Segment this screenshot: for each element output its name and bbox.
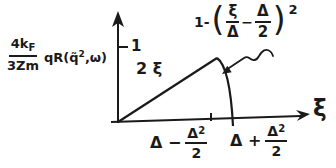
x-axis (111, 116, 301, 122)
formula-minus: − (241, 15, 253, 29)
x-tick-right-label: Δ + Δ2 2 (230, 124, 287, 158)
y-label-num-main: 4k (11, 36, 29, 51)
formula-fraction-xi-over-delta: ξ Δ (226, 4, 239, 40)
y-label-func-post: ,ω) (85, 50, 107, 65)
x-left-num-superscript: 2 (198, 125, 205, 136)
slope-label: 2 ξ (136, 61, 162, 77)
x-right-fraction: Δ2 2 (265, 124, 287, 158)
formula-fraction-delta-over-2: Δ 2 (255, 4, 271, 40)
x-left-pre: Δ − (150, 135, 181, 151)
y-label-denominator: 3Zm (7, 57, 39, 72)
formula-exponent: 2 (289, 3, 298, 16)
x-right-num-main: Δ (267, 123, 278, 139)
x-left-denominator: 2 (191, 144, 201, 160)
y-axis-label: 4kF 3Zm qR(q̃2,ω) (7, 37, 107, 72)
formula-frac2-numerator: Δ (255, 4, 271, 23)
formula-prefix: 1- (194, 15, 210, 29)
close-paren: ) (273, 0, 286, 40)
linear-segment-2xi (118, 58, 217, 122)
x-right-pre: Δ + (230, 133, 261, 149)
y-label-function: qR(q̃2,ω) (44, 50, 107, 64)
x-left-fraction: Δ2 2 (185, 126, 207, 160)
formula-frac1-numerator: ξ (226, 4, 239, 23)
x-right-numerator: Δ2 (265, 124, 287, 142)
y-tick-label: 1 (131, 39, 141, 54)
formula-frac1-denominator: Δ (227, 23, 239, 40)
pointer-squiggle (229, 50, 273, 68)
y-label-num-subscript: F (28, 42, 35, 53)
parabolic-segment (217, 58, 233, 126)
formula-frac2-denominator: 2 (258, 23, 268, 40)
figure-hand-drawn-plot: 4kF 3Zm qR(q̃2,ω) 1 2 ξ 1- ( ξ Δ − Δ 2 )… (0, 0, 336, 168)
y-label-fraction: 4kF 3Zm (7, 37, 39, 72)
open-paren: ( (212, 0, 225, 40)
y-label-func-pre: qR(q̃ (44, 50, 79, 65)
x-right-num-superscript: 2 (278, 123, 285, 134)
x-tick-left-label: Δ − Δ2 2 (150, 126, 207, 160)
y-label-numerator: 4kF (9, 37, 38, 57)
x-right-denominator: 2 (271, 142, 281, 158)
x-axis-label: ξ (313, 97, 327, 120)
x-left-numerator: Δ2 (185, 126, 207, 144)
x-left-num-main: Δ (187, 125, 198, 141)
formula-label: 1- ( ξ Δ − Δ 2 ) 2 (194, 3, 298, 40)
